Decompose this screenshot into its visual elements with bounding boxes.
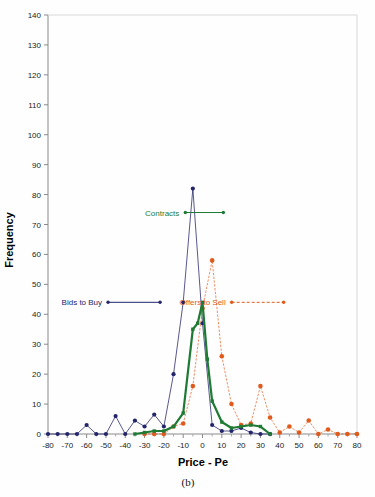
series-line (48, 189, 270, 434)
y-tick-label: 130 (28, 41, 42, 50)
x-tick-label: 20 (237, 441, 246, 450)
x-tick-label: 80 (353, 441, 362, 450)
x-tick-label: -80 (42, 441, 54, 450)
data-point (277, 430, 282, 435)
data-point (206, 357, 209, 360)
data-point (258, 384, 263, 389)
y-tick-label: 140 (28, 11, 42, 20)
data-point (75, 432, 79, 436)
x-tick-label: 0 (200, 441, 205, 450)
y-tick-label: 0 (37, 430, 42, 439)
data-point (172, 425, 175, 428)
data-point (210, 399, 213, 402)
x-tick-label: -20 (158, 441, 170, 450)
x-tick-label: 40 (275, 441, 284, 450)
data-point (133, 418, 137, 422)
annotation-label-bids-to-buy: Bids to Buy (62, 298, 102, 307)
y-axis-ticks: 0102030405060708090100110120130140 (28, 11, 48, 439)
y-tick-label: 110 (28, 101, 41, 110)
annotation-label-contracts: Contracts (145, 209, 179, 218)
data-point (181, 421, 186, 426)
data-point (268, 415, 273, 420)
y-tick-label: 100 (28, 131, 42, 140)
data-point (229, 402, 234, 407)
data-point (142, 424, 146, 428)
chart-canvas: 0102030405060708090100110120130140 -80-7… (0, 0, 375, 497)
x-tick-label: 70 (333, 441, 342, 450)
figure-container: 0102030405060708090100110120130140 -80-7… (0, 0, 375, 497)
data-point (171, 372, 175, 376)
data-point (191, 384, 196, 389)
data-point (133, 432, 136, 435)
data-point (104, 432, 108, 436)
y-tick-label: 120 (28, 71, 42, 80)
annotation-leader-dot (282, 301, 285, 304)
data-point (143, 431, 146, 434)
x-tick-label: -60 (81, 441, 93, 450)
x-tick-label: -50 (100, 441, 112, 450)
frequency-distribution-chart: 0102030405060708090100110120130140 -80-7… (0, 0, 375, 497)
data-point (220, 354, 225, 359)
data-point (210, 423, 214, 427)
data-point (113, 414, 117, 418)
data-point (249, 430, 253, 434)
annotation-leader-dot (158, 301, 161, 304)
data-point (191, 328, 194, 331)
data-point (239, 425, 242, 428)
y-tick-label: 10 (32, 400, 41, 409)
data-point (123, 432, 127, 436)
data-point (196, 322, 199, 325)
x-tick-label: 30 (256, 441, 265, 450)
data-point (153, 429, 156, 432)
data-point (355, 432, 360, 437)
data-point (162, 429, 165, 432)
data-point (94, 432, 98, 436)
x-tick-label: -30 (139, 441, 151, 450)
data-point (220, 420, 223, 423)
annotation-leader-dot (222, 211, 225, 214)
data-point (249, 423, 252, 426)
x-tick-label: 50 (295, 441, 304, 450)
data-point (316, 432, 321, 437)
figure-caption: (b) (182, 476, 195, 489)
y-tick-label: 30 (32, 340, 41, 349)
data-point (46, 432, 50, 436)
y-axis-label: Frequency (3, 211, 15, 268)
data-point (191, 186, 195, 190)
x-axis-label: Price - Pe (178, 456, 228, 468)
y-tick-label: 50 (32, 280, 41, 289)
y-tick-label: 60 (32, 250, 41, 259)
data-point (65, 432, 69, 436)
data-point (345, 432, 350, 437)
y-tick-label: 40 (32, 310, 41, 319)
x-tick-label: -70 (62, 441, 74, 450)
x-tick-label: 10 (217, 441, 226, 450)
annotation-label-offers-to-sell: Offers to Sell (180, 298, 226, 307)
data-point (306, 418, 311, 423)
data-point (85, 423, 89, 427)
y-tick-label: 20 (32, 370, 41, 379)
data-point (181, 411, 184, 414)
data-point (220, 429, 224, 433)
data-series-group (46, 186, 359, 436)
data-point (297, 430, 302, 435)
data-point (258, 432, 262, 436)
series-line (145, 260, 357, 434)
y-tick-label: 90 (32, 161, 41, 170)
data-point (287, 424, 292, 429)
data-point (259, 425, 262, 428)
x-tick-label: 60 (314, 441, 323, 450)
y-tick-label: 70 (32, 221, 41, 230)
plot-frame (48, 15, 357, 434)
data-point (162, 424, 166, 428)
annotation-leader-dot (184, 211, 187, 214)
series-offers-to-sell (142, 258, 359, 436)
data-point (326, 427, 331, 432)
x-tick-label: -10 (177, 441, 189, 450)
data-point (56, 432, 60, 436)
data-point (268, 432, 271, 435)
x-tick-label: -40 (119, 441, 131, 450)
series-annotations: ContractsBids to BuyOffers to Sell (62, 209, 286, 308)
series-bids-to-buy (46, 186, 272, 436)
annotation-leader-dot (230, 301, 233, 304)
